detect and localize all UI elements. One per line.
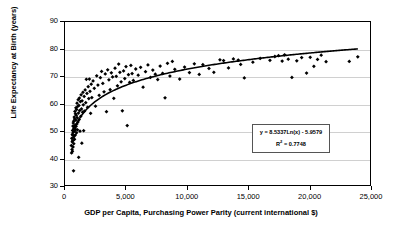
data-point [124, 65, 128, 69]
data-point [123, 77, 127, 81]
data-point [139, 65, 143, 69]
data-point [295, 59, 299, 63]
data-point [114, 74, 118, 78]
data-point [324, 60, 328, 64]
data-point [101, 82, 105, 86]
x-tick-mark-20000 [310, 186, 311, 190]
data-point [125, 124, 129, 128]
x-tick-mark-5000 [125, 186, 126, 190]
data-point [89, 82, 93, 86]
data-point [280, 59, 284, 63]
x-tick-mark-10000 [187, 186, 188, 190]
data-point [130, 72, 134, 76]
data-point [106, 68, 110, 72]
data-point [192, 62, 196, 66]
data-point [129, 64, 133, 68]
data-point [77, 155, 81, 159]
y-tick-label-40: 40 [32, 155, 58, 163]
data-point [188, 71, 192, 75]
chart-page: Life Expectancy at Birth (years) 3040506… [0, 0, 402, 232]
data-point [118, 70, 122, 74]
data-point [178, 77, 182, 81]
trendline-equation: y = 8.5337Ln(x) - 5.9579 [255, 128, 327, 137]
data-point [151, 68, 155, 72]
data-point [117, 62, 121, 66]
data-point [163, 96, 167, 100]
data-point [166, 61, 170, 65]
data-point [286, 57, 290, 61]
trendline-equation-box: y = 8.5337Ln(x) - 5.9579 R2 = 0.7748 [252, 124, 330, 153]
data-point [79, 114, 83, 118]
data-point [80, 141, 84, 145]
x-tick-mark-15000 [248, 186, 249, 190]
data-point [153, 72, 157, 76]
y-tick-label-50: 50 [32, 127, 58, 135]
data-point [96, 83, 100, 87]
data-point [173, 67, 177, 71]
data-point [120, 109, 124, 113]
data-point [277, 54, 281, 58]
data-point [127, 73, 131, 77]
data-point [92, 86, 96, 90]
data-point [239, 63, 243, 67]
trendline-r-squared: R2 = 0.7748 [255, 137, 327, 149]
data-point [91, 79, 95, 83]
data-point [236, 58, 240, 62]
data-point [107, 78, 111, 82]
x-tick-label-10000: 10,000 [165, 193, 209, 201]
data-point [86, 105, 90, 109]
data-point [347, 60, 351, 64]
plot-area [64, 21, 371, 186]
data-point [170, 60, 174, 64]
data-point [212, 70, 216, 74]
data-point [242, 76, 246, 80]
data-point [231, 57, 235, 61]
y-tick-label-90: 90 [32, 17, 58, 25]
x-tick-label-20000: 20,000 [288, 193, 332, 201]
data-point [283, 53, 287, 57]
data-point [273, 55, 277, 59]
r-squared-value: = 0.7748 [282, 141, 305, 147]
data-point [290, 76, 294, 80]
data-point [97, 93, 101, 97]
data-point [183, 65, 187, 69]
data-point [105, 110, 109, 114]
data-point [308, 55, 312, 59]
x-tick-mark-0 [64, 186, 65, 190]
data-point [268, 58, 272, 62]
data-point [136, 73, 140, 77]
data-point [144, 70, 148, 74]
x-tick-label-25000: 25,000 [349, 193, 393, 201]
x-tick-mark-25000 [371, 186, 372, 190]
data-point [149, 76, 153, 80]
data-point [197, 73, 201, 77]
data-point [316, 58, 320, 62]
data-point [87, 97, 91, 101]
data-point [98, 76, 102, 80]
data-point [312, 64, 316, 68]
data-point [156, 78, 160, 82]
data-point [128, 80, 132, 84]
data-point [319, 53, 323, 57]
data-point [113, 66, 117, 70]
x-axis-title: GDP per Capita, Purchasing Power Parity … [0, 208, 402, 217]
data-point [108, 88, 112, 92]
data-point [94, 104, 98, 108]
x-tick-label-15000: 15,000 [226, 193, 270, 201]
data-point [146, 63, 150, 67]
data-points [65, 22, 370, 185]
data-point [356, 55, 360, 59]
data-point [300, 56, 304, 60]
data-point [89, 111, 93, 115]
y-tick-label-70: 70 [32, 72, 58, 80]
data-point [90, 96, 94, 100]
data-point [131, 79, 135, 83]
data-point [168, 74, 172, 78]
y-tick-label-60: 60 [32, 100, 58, 108]
data-point [86, 85, 90, 89]
data-point [207, 67, 211, 71]
data-point [222, 59, 226, 63]
data-point [72, 169, 76, 173]
data-point [83, 88, 87, 92]
data-point [81, 103, 85, 107]
